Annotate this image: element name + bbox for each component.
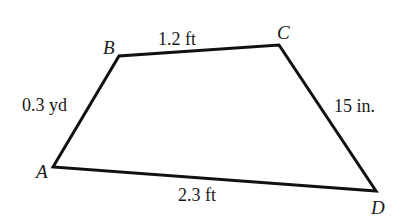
side-label-cd: 15 in.: [334, 96, 375, 116]
vertex-label-d: D: [370, 197, 385, 218]
vertex-label-b: B: [103, 37, 115, 58]
quadrilateral-abcd: [53, 45, 376, 191]
side-label-ab: 0.3 yd: [22, 95, 67, 115]
quadrilateral-diagram: A B C D 0.3 yd 1.2 ft 15 in. 2.3 ft: [0, 0, 407, 223]
side-label-bc: 1.2 ft: [158, 29, 196, 49]
side-label-da: 2.3 ft: [178, 185, 216, 205]
vertex-label-c: C: [277, 22, 290, 43]
vertex-label-a: A: [34, 161, 48, 182]
